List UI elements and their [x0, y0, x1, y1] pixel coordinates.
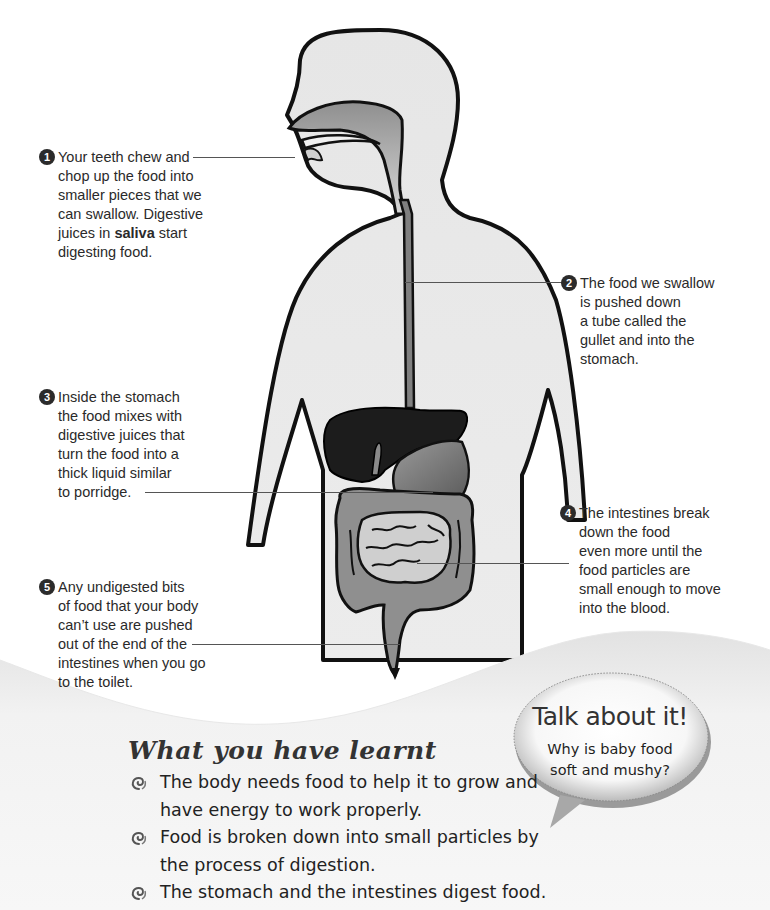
leader-line-stomach — [145, 492, 433, 493]
leader-line-gullet — [405, 282, 565, 283]
step-number-badge: 1 — [39, 149, 55, 165]
learnt-list: The body needs food to help it to grow a… — [128, 769, 546, 907]
section-heading: What you have learnt — [128, 736, 546, 765]
keyword-saliva: saliva — [114, 225, 154, 241]
step-number-badge: 5 — [39, 579, 55, 595]
callout-large-intestine: 5 Any undigested bits of food that your … — [58, 578, 206, 692]
callout-intestines: 4 The intestines break down the food eve… — [579, 504, 721, 618]
what-you-have-learnt-section: What you have learnt The body needs food… — [128, 736, 546, 907]
step-number-badge: 4 — [560, 505, 576, 521]
list-item: The stomach and the intestines digest fo… — [128, 879, 546, 907]
swirl-icon — [130, 829, 148, 847]
list-item: The body needs food to help it to grow a… — [128, 769, 546, 824]
step-number-badge: 3 — [39, 389, 55, 405]
swirl-icon — [130, 884, 148, 902]
list-item: Food is broken down into small particles… — [128, 824, 546, 879]
callout-gullet: 2 The food we swallow is pushed down a t… — [580, 274, 715, 369]
leader-line-intestines — [417, 563, 569, 564]
callout-teeth: 1 Your teeth chew and chop up the food i… — [58, 148, 203, 262]
callout-stomach: 3 Inside the stomach the food mixes with… — [58, 388, 185, 502]
swirl-icon — [130, 774, 148, 792]
talk-about-it-title: Talk about it! — [510, 702, 710, 731]
leader-line-large-intestine-end — [192, 644, 400, 645]
leader-line-teeth — [193, 157, 295, 158]
step-number-badge: 2 — [561, 275, 577, 291]
